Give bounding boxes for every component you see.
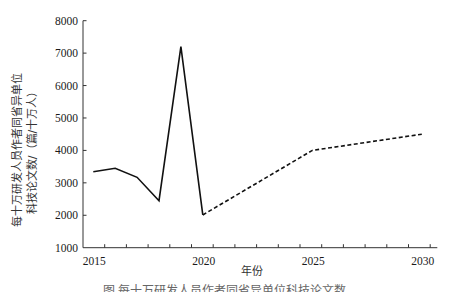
y-tick-label: 3000	[55, 177, 78, 189]
y-tick-label: 2000	[55, 209, 78, 221]
y-axis-tick-labels: 10002000300040005000600070008000	[55, 15, 78, 254]
x-tick-label: 2030	[411, 255, 434, 267]
line-chart: 10002000300040005000600070008000 2015202…	[0, 0, 449, 292]
x-tick-label: 2020	[192, 255, 215, 267]
historical-series-line	[93, 47, 203, 215]
y-axis-title-line1: 每十万研发人员作者同省异单位	[10, 73, 24, 227]
y-tick-label: 6000	[55, 80, 78, 92]
x-axis-title: 年份	[241, 264, 263, 278]
y-tick-label: 5000	[55, 112, 78, 124]
x-axis-ticks	[105, 244, 431, 248]
y-axis-title: 每十万研发人员作者同省异单位 科技论文数/（篇/十万人）	[10, 73, 39, 227]
y-tick-label: 8000	[55, 15, 78, 27]
x-tick-label: 2025	[302, 255, 325, 267]
y-axis-title-line2: 科技论文数/（篇/十万人）	[25, 86, 39, 214]
y-tick-label: 4000	[55, 144, 78, 156]
figure-caption: 图 每十万研发人员作者同省异单位科技论文数	[0, 283, 449, 292]
y-axis-ticks	[83, 21, 87, 216]
x-tick-label: 2015	[83, 255, 106, 267]
projected-series-line	[203, 134, 422, 215]
y-tick-label: 7000	[55, 47, 78, 59]
y-tick-label: 1000	[55, 242, 78, 254]
